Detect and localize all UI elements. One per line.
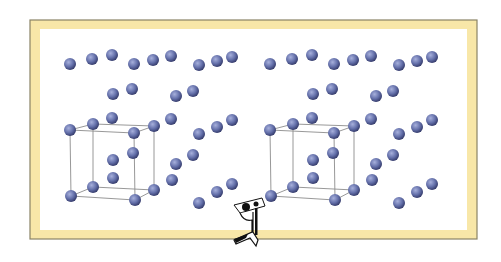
atom [170, 158, 182, 170]
atom [128, 127, 140, 139]
atom [411, 186, 423, 198]
atom [264, 124, 276, 136]
atom [187, 85, 199, 97]
atom [426, 51, 438, 63]
atom [106, 49, 118, 61]
atom [286, 53, 298, 65]
atom [365, 113, 377, 125]
atom [226, 51, 238, 63]
atom [411, 121, 423, 133]
atom [307, 154, 319, 166]
atom [128, 58, 140, 70]
atom [348, 184, 360, 196]
atom [306, 112, 318, 124]
atom [411, 55, 423, 67]
atom [165, 50, 177, 62]
atom [393, 128, 405, 140]
atom [193, 197, 205, 209]
atom [426, 178, 438, 190]
atom [307, 172, 319, 184]
atom [328, 127, 340, 139]
atom [126, 83, 138, 95]
atom [211, 121, 223, 133]
atom [387, 149, 399, 161]
atom [370, 158, 382, 170]
atom [107, 172, 119, 184]
atom [329, 194, 341, 206]
atom [65, 190, 77, 202]
atom [148, 184, 160, 196]
atom [264, 58, 276, 70]
atom [106, 112, 118, 124]
atom [64, 124, 76, 136]
atom [87, 181, 99, 193]
atom [211, 186, 223, 198]
atom [147, 54, 159, 66]
atom [193, 59, 205, 71]
atom [165, 113, 177, 125]
atom [148, 120, 160, 132]
atom [166, 174, 178, 186]
atom [86, 53, 98, 65]
atom [327, 147, 339, 159]
atom [107, 88, 119, 100]
atom [129, 194, 141, 206]
atom [226, 178, 238, 190]
logo-eye-left [242, 203, 250, 211]
atom [393, 59, 405, 71]
atom [365, 50, 377, 62]
logo-staff [255, 208, 258, 235]
atom [326, 83, 338, 95]
atom [328, 58, 340, 70]
atom [226, 114, 238, 126]
atom [187, 149, 199, 161]
atom [127, 147, 139, 159]
atom [387, 85, 399, 97]
atom [193, 128, 205, 140]
atom [347, 54, 359, 66]
atom [287, 181, 299, 193]
atom [307, 88, 319, 100]
atom [87, 118, 99, 130]
atom [393, 197, 405, 209]
atom [287, 118, 299, 130]
atom [426, 114, 438, 126]
atom [170, 90, 182, 102]
logo-eye-right [254, 202, 259, 207]
atom [306, 49, 318, 61]
atom [64, 58, 76, 70]
atom [348, 120, 360, 132]
atom [370, 90, 382, 102]
atom [265, 190, 277, 202]
crystal-lattice-diagram [0, 0, 501, 262]
atom [107, 154, 119, 166]
atom [211, 55, 223, 67]
atom [366, 174, 378, 186]
